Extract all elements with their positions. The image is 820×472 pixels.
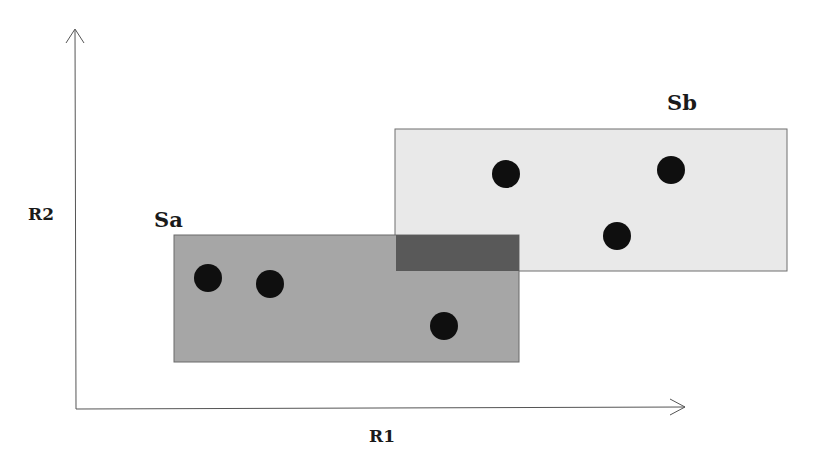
point-sa-3 — [430, 312, 458, 340]
point-sb-2 — [657, 156, 685, 184]
x-axis-label: R1 — [369, 428, 395, 445]
overlap-region — [396, 235, 519, 271]
point-sa-1 — [194, 264, 222, 292]
diagram-canvas: R2 R1 Sa Sb — [0, 0, 820, 472]
point-sb-1 — [492, 160, 520, 188]
set-sb-label: Sb — [667, 92, 697, 113]
y-axis-label: R2 — [28, 206, 54, 223]
diagram-svg — [0, 0, 820, 472]
point-sb-3 — [603, 222, 631, 250]
point-sa-2 — [256, 270, 284, 298]
x-axis — [76, 407, 685, 409]
y-axis — [75, 30, 76, 409]
set-sa-label: Sa — [154, 209, 183, 230]
